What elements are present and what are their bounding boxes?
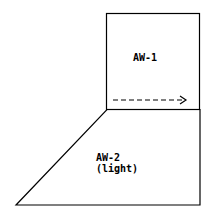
dashed-arrow <box>113 96 186 104</box>
region-aw2-sublabel: (light) <box>96 163 138 174</box>
diagram-canvas: AW-1 AW-2 (light) <box>0 0 209 216</box>
region-aw2-label: AW-2 <box>96 152 120 163</box>
region-aw1-label: AW-1 <box>133 52 157 63</box>
